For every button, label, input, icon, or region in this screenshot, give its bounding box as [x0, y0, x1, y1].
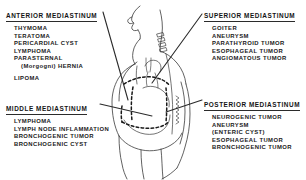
superior-mediastinum-heading: SUPERIOR MEDIASTINUM	[204, 12, 295, 22]
list-item: NEUROGENIC TUMOR	[212, 114, 300, 122]
anterior-mediastinum-heading: ANTERIOR MEDIASTINUM	[6, 12, 97, 22]
leader-lines	[100, 12, 202, 116]
list-item: THYMOMA	[14, 25, 97, 33]
list-item: PERICARDIAL CYST	[14, 40, 97, 48]
list-item: BRONCHOGENIC TUMOR	[212, 144, 300, 152]
list-item: LIPOMA	[14, 75, 97, 83]
list-item: LYMPH NODE INFLAMMATION	[14, 126, 109, 134]
list-item: BRONCHOGENIC TUMOR	[14, 133, 109, 141]
list-item: ANEURYSM	[212, 122, 300, 130]
list-item: GOITER	[212, 25, 295, 33]
middle-mediastinum-block: MIDDLE MEDIASTINUM LYMPHOMA LYMPH NODE I…	[6, 97, 109, 148]
anterior-mediastinum-list: THYMOMA TERATOMA PERICARDIAL CYST LYMPHO…	[6, 22, 97, 82]
middle-mediastinum-heading: MIDDLE MEDIASTINUM	[6, 105, 87, 115]
superior-mediastinum-block: SUPERIOR MEDIASTINUM GOITER ANEURYSM PAR…	[204, 4, 295, 63]
list-item: ESOPHAGEAL TUMOR	[212, 137, 300, 145]
leader-anterior	[103, 12, 128, 100]
compartment-boundaries	[121, 77, 170, 128]
list-item: (Morgogni) HERNIA	[14, 63, 97, 71]
list-item: ANEURYSM	[212, 33, 295, 41]
list-item: LYMPHOMA	[14, 48, 97, 56]
list-item: BRONCHOGENIC CYST	[14, 141, 109, 149]
anterior-mediastinum-block: ANTERIOR MEDIASTINUM THYMOMA TERATOMA PE…	[6, 4, 97, 82]
list-item: (ENTERIC CYST)	[212, 129, 300, 137]
list-item: ESOPHAGEAL TUMOR	[212, 48, 295, 56]
list-item: LYMPHOMA	[14, 118, 109, 126]
list-item: PARATHYROID TUMOR	[212, 40, 295, 48]
posterior-mediastinum-block: POSTERIOR MEDIASTINUM NEUROGENIC TUMOR A…	[204, 93, 300, 152]
leader-superior	[152, 14, 202, 83]
middle-mediastinum-list: LYMPHOMA LYMPH NODE INFLAMMATION BRONCHO…	[6, 115, 109, 148]
mediastinum-diagram: ANTERIOR MEDIASTINUM THYMOMA TERATOMA PE…	[0, 0, 306, 180]
posterior-mediastinum-heading: POSTERIOR MEDIASTINUM	[204, 101, 300, 111]
list-item: ANGIOMATOUS TUMOR	[212, 55, 295, 63]
leader-posterior	[166, 100, 202, 112]
list-item: PARASTERNAL	[14, 55, 97, 63]
posterior-mediastinum-list: NEUROGENIC TUMOR ANEURYSM (ENTERIC CYST)…	[204, 111, 300, 152]
list-item: TERATOMA	[14, 33, 97, 41]
superior-mediastinum-list: GOITER ANEURYSM PARATHYROID TUMOR ESOPHA…	[204, 22, 295, 63]
